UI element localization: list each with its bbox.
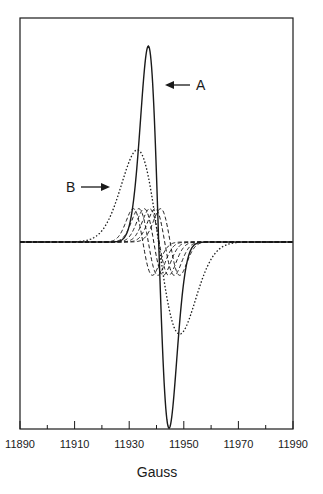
tick-label-11950: 11950 bbox=[169, 438, 199, 450]
arrow-left-icon bbox=[165, 81, 174, 89]
tick-label-11970: 11970 bbox=[224, 438, 254, 450]
x-axis-ticks bbox=[20, 421, 293, 429]
annotation-a: A bbox=[165, 77, 206, 93]
annotation-label-a: A bbox=[196, 77, 206, 93]
epr-spectrum-chart: 11890 11910 11930 11950 11970 11990 Gaus… bbox=[0, 0, 323, 494]
annotation-b: B bbox=[66, 179, 110, 195]
arrow-right-icon bbox=[101, 183, 110, 191]
tick-label-11990: 11990 bbox=[278, 438, 308, 450]
tick-label-11910: 11910 bbox=[60, 438, 90, 450]
x-axis-tick-labels: 11890 11910 11930 11950 11970 11990 bbox=[5, 438, 308, 450]
spectrum-curves bbox=[20, 46, 292, 428]
tick-label-11930: 11930 bbox=[114, 438, 144, 450]
annotation-label-b: B bbox=[66, 179, 75, 195]
tick-label-11890: 11890 bbox=[5, 438, 35, 450]
x-axis-title: Gauss bbox=[137, 464, 177, 480]
